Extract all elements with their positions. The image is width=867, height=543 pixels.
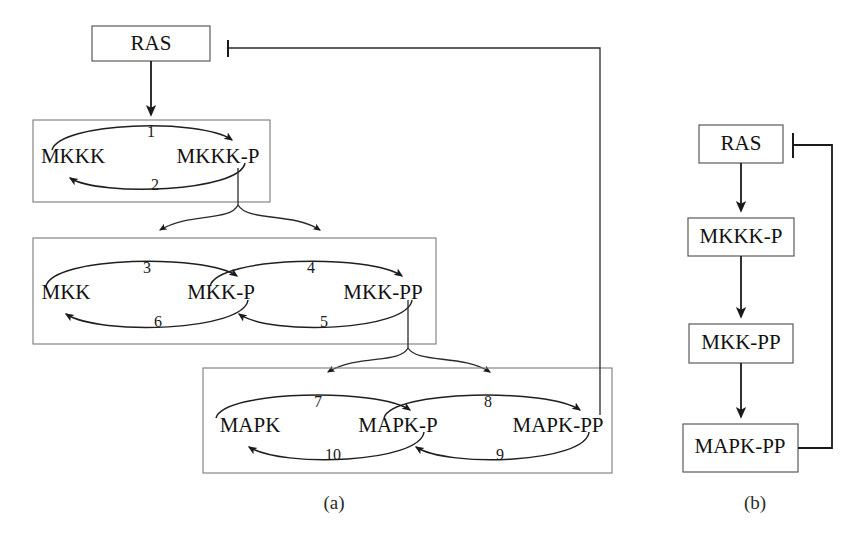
species-mkkk-p-label: MKKK-P xyxy=(177,144,260,168)
panel-b: RAS MKKK-P MKK-PP MAPK-PP xyxy=(683,125,832,472)
caption-panel-b: (b) xyxy=(744,492,766,514)
tier-mkkk: MKKK MKKK-P 1 2 xyxy=(33,120,270,202)
node-ras-b-label: RAS xyxy=(721,131,762,155)
edge-mapk-pp-inhibits-ras xyxy=(228,48,600,415)
edge-mkkk-p-to-reaction-4 xyxy=(238,205,320,230)
figure-canvas: RAS MKKK MKKK-P 1 2 xyxy=(0,0,867,543)
reaction-1-number: 1 xyxy=(147,123,155,140)
reaction-10-number: 10 xyxy=(325,446,341,463)
node-mkkk-p-b-label: MKKK-P xyxy=(700,224,783,248)
reaction-7-number: 7 xyxy=(314,393,322,410)
node-ras-b[interactable]: RAS xyxy=(699,125,783,163)
node-ras-a[interactable]: RAS xyxy=(92,26,210,61)
node-mkkk-p-b[interactable]: MKKK-P xyxy=(688,218,794,256)
node-mapk-pp-b-label: MAPK-PP xyxy=(694,434,785,458)
species-mkk-label: MKK xyxy=(41,280,90,304)
reaction-9-number: 9 xyxy=(496,446,504,463)
node-mapk-pp-b[interactable]: MAPK-PP xyxy=(683,424,798,472)
species-mapk-label: MAPK xyxy=(220,413,281,437)
edge-mkkk-p-to-reaction-3 xyxy=(160,205,238,230)
reaction-2-number: 2 xyxy=(151,176,159,193)
reaction-5-number: 5 xyxy=(320,313,328,330)
edge-mapk-pp-inhibits-ras-b xyxy=(793,145,832,448)
reaction-3-number: 3 xyxy=(143,259,151,276)
caption-panel-a: (a) xyxy=(323,492,344,514)
reaction-8-number: 8 xyxy=(484,393,492,410)
reaction-4-number: 4 xyxy=(307,259,315,276)
tier-mapk: MAPK MAPK-P MAPK-PP 7 8 9 10 xyxy=(203,368,612,473)
species-mapk-pp-label: MAPK-PP xyxy=(512,413,603,437)
reaction-6-number: 6 xyxy=(154,313,162,330)
node-mkk-pp-b[interactable]: MKK-PP xyxy=(689,324,793,363)
panel-a: RAS MKKK MKKK-P 1 2 xyxy=(33,26,612,473)
species-mapk-p-label: MAPK-P xyxy=(358,413,437,437)
species-mkk-p-label: MKK-P xyxy=(187,280,255,304)
species-mkkk-label: MKKK xyxy=(41,144,105,168)
species-mkk-pp-label: MKK-PP xyxy=(343,280,422,304)
node-mkk-pp-b-label: MKK-PP xyxy=(701,330,780,354)
tier-mkk: MKK MKK-P MKK-PP 3 4 5 6 xyxy=(33,238,436,344)
node-ras-a-label: RAS xyxy=(131,31,172,55)
pathway-diagram: RAS MKKK MKKK-P 1 2 xyxy=(0,0,867,543)
